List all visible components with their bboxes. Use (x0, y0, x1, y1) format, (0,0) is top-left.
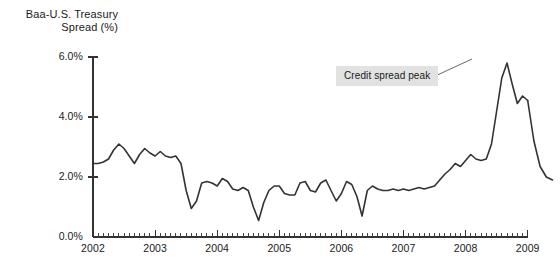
chart-axes (93, 57, 528, 237)
x-tick-label: 2009 (508, 242, 548, 254)
chart-tick-marks (88, 57, 528, 237)
y-tick-label: 4.0% (41, 110, 83, 122)
x-tick-label: 2005 (259, 242, 299, 254)
chart-figure: Baa-U.S. TreasurySpread (%) 0.0%2.0%4.0%… (0, 0, 560, 268)
x-tick-label: 2002 (73, 242, 113, 254)
annotation-credit-spread-peak: Credit spread peak (336, 66, 438, 86)
x-tick-label: 2006 (321, 242, 361, 254)
annotation-leader-line (433, 59, 472, 77)
x-tick-label: 2007 (384, 242, 424, 254)
y-tick-label: 6.0% (41, 50, 83, 62)
y-tick-label: 0.0% (41, 230, 83, 242)
chart-data-series (93, 63, 553, 221)
x-tick-label: 2003 (135, 242, 175, 254)
chart-plot-area (0, 0, 560, 268)
y-tick-label: 2.0% (41, 170, 83, 182)
x-tick-label: 2008 (446, 242, 486, 254)
x-tick-label: 2004 (197, 242, 237, 254)
